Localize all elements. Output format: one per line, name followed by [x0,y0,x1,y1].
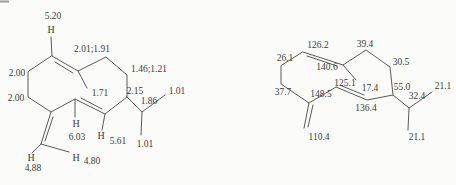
shift-label-exomethylene-c: 148.5 [310,89,332,99]
shift-label-diene-ch-left: 125.1 [334,78,356,88]
shift-label-isopropyl-ch3-lower: 21.1 [409,132,426,142]
shift-label-isopropyl-ch3-upper: 1.01 [169,86,186,96]
nmr-shift-figure: 5.20 H 2.01;1.91 2.00 1.46;1.21 2.00 1.7… [0,0,456,185]
shift-label-ring-ch2-left-upper: 2.00 [9,68,26,78]
h-atom-exomethylene-left: H [27,152,34,163]
shift-label-ring-ch2-top: 39.4 [357,39,374,49]
structures-svg: 5.20 H 2.01;1.91 2.00 1.46;1.21 2.00 1.7… [0,0,456,185]
proton-structure: 5.20 H 2.01;1.91 2.00 1.46;1.21 2.00 1.7… [8,11,186,173]
double-bond-top-inner [55,62,73,73]
shift-label-ring-ch: 2.15 [127,86,144,96]
shift-label-ring-ch2-left-lower: 37.7 [275,87,292,97]
shift-label-diene-ch-right: 5.61 [110,136,127,146]
h-stub-diene-right [102,114,105,130]
shift-label-exomethylene-ch2: 110.4 [308,132,329,142]
shift-label-olefinic-c-quaternary: 140.6 [316,62,338,72]
h-stub-top [51,37,52,56]
shift-label-ring-ch2-top: 2.01;1.91 [74,44,110,54]
shift-label-diene-ch-right: 136.4 [355,103,377,113]
shift-label-diene-ch-left: 6.03 [69,132,86,142]
shift-label-isopropyl-ch3-upper: 21.1 [435,81,452,91]
shift-label-vinyl-methyl: 17.4 [362,83,379,93]
shift-label-olefinic-ch-top: 5.20 [45,11,62,21]
shift-label-isopropyl-ch: 32.4 [409,91,426,101]
shift-label-vinyl-methyl: 1.71 [92,88,109,98]
shift-label-olefinic-ch-top: 126.2 [307,40,329,50]
shift-label-ring-ch2-left-lower: 2.00 [8,93,25,103]
h-atom-diene-right: H [97,130,104,141]
shift-label-isopropyl-ch3-lower: 1.01 [137,139,154,149]
h-atom-exomethylene-right: H [72,152,79,163]
shift-label-exomethylene-left: 4.88 [25,163,42,173]
vinyl-methyl-bond [78,71,87,88]
h-atom-diene-left: H [72,118,79,129]
shift-label-exomethylene-right: 4.80 [84,156,101,166]
h-atom-top: H [47,24,54,35]
carbon-structure: 126.2 39.4 26.1 140.6 30.5 125.1 17.4 55… [275,39,452,142]
shift-label-isopropyl-ch: 1.86 [141,96,158,106]
shift-label-ring-ch2-right: 1.46;1.21 [131,64,167,74]
shift-label-ring-ch2-left-upper: 26.1 [277,53,294,63]
shift-label-ring-ch2-right: 30.5 [393,57,410,67]
